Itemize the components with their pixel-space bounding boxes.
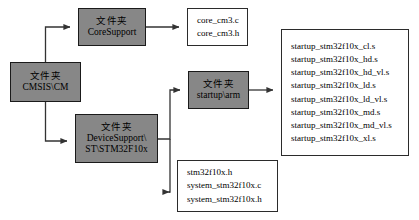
file-item: startup_stm32f10x_ld_vl.s	[291, 93, 387, 106]
edge-cmsis-to-coresupport	[46, 27, 71, 62]
node-cmsis-cm-label-path: CMSIS\CM	[23, 82, 69, 94]
file-item: system_stm32f10x.h	[187, 193, 262, 206]
diagram-canvas: 文件夹 CMSIS\CM 文件夹 CoreSupport 文件夹 startup…	[0, 0, 419, 220]
node-startup-files: startup_stm32f10x_cl.s startup_stm32f10x…	[281, 29, 409, 156]
file-item: startup_stm32f10x_hd_vl.s	[291, 66, 389, 79]
node-cmsis-cm[interactable]: 文件夹 CMSIS\CM	[10, 62, 81, 102]
file-item: core_cm3.h	[197, 27, 239, 40]
file-item: stm32f10x.h	[187, 166, 232, 179]
edge-devicesupport-to-stm32files	[163, 139, 170, 192]
file-item: startup_stm32f10x_md.s	[291, 106, 380, 119]
node-stm32f10x-files: stm32f10x.h system_stm32f10x.c system_st…	[177, 160, 278, 212]
edge-devicesupport-to-startuparm	[158, 90, 180, 139]
file-item: startup_stm32f10x_ld.s	[291, 79, 376, 92]
file-item: startup_stm32f10x_cl.s	[291, 40, 375, 53]
node-device-support[interactable]: 文件夹 DeviceSupport\ ST\STM32F10x	[75, 114, 158, 163]
node-core-cm3-files: core_cm3.c core_cm3.h	[187, 8, 248, 46]
file-item: startup_stm32f10x_hd.s	[291, 53, 378, 66]
file-item: system_stm32f10x.c	[187, 179, 261, 192]
node-core-support-label-cn: 文件夹	[96, 15, 127, 27]
node-cmsis-cm-label-cn: 文件夹	[30, 70, 61, 82]
file-item: core_cm3.c	[197, 14, 239, 27]
node-startup-arm-label-cn: 文件夹	[203, 78, 234, 90]
node-core-support[interactable]: 文件夹 CoreSupport	[78, 8, 146, 46]
node-device-support-label-path1: DeviceSupport\	[87, 133, 147, 145]
node-startup-arm-label-path: startup\arm	[197, 90, 240, 102]
edge-cmsis-to-devicesupport	[46, 102, 68, 141]
node-device-support-label-cn: 文件夹	[101, 121, 132, 133]
node-startup-arm[interactable]: 文件夹 startup\arm	[188, 71, 249, 109]
file-item: startup_stm32f10x_md_vl.s	[291, 119, 392, 132]
node-device-support-label-path2: ST\STM32F10x	[85, 144, 147, 156]
node-core-support-label-path: CoreSupport	[88, 27, 137, 39]
file-item: startup_stm32f10x_xl.s	[291, 132, 376, 145]
